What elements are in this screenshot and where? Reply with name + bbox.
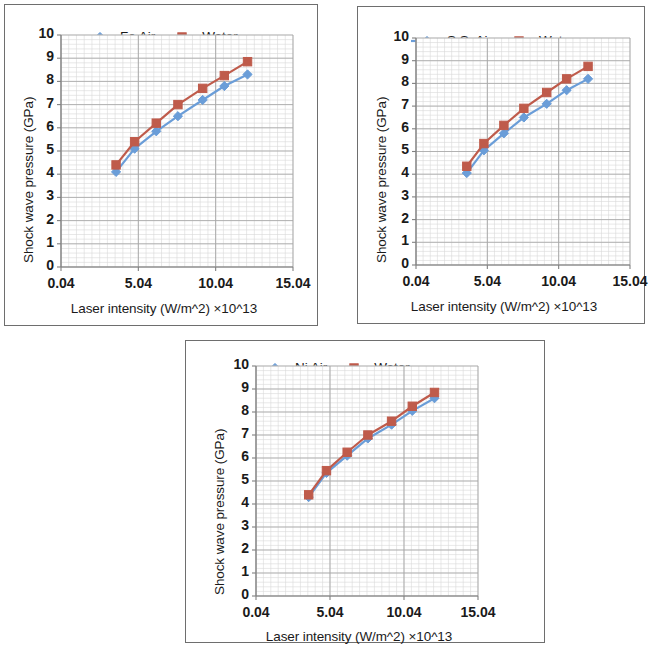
y-axis-tick-label: 1 (241, 563, 249, 579)
y-axis-tick-label: 2 (401, 210, 409, 226)
y-axis-tick-label: 7 (241, 425, 249, 441)
chart-panel-ni: Shock wave pressure (GPa) Ni Air Water L… (185, 340, 545, 643)
data-point-square (243, 57, 251, 65)
y-axis-tick-label: 8 (401, 73, 409, 89)
data-point-square (387, 417, 395, 425)
y-axis-tick-label: 8 (241, 402, 249, 418)
chart-fe: Shock wave pressure (GPa) Fe Air Water L… (5, 5, 317, 325)
y-axis-tick-label: 10 (393, 28, 409, 44)
data-point-square (480, 139, 488, 147)
data-point-square (408, 402, 416, 410)
data-point-square (343, 448, 351, 456)
y-axis-tick-label: 4 (46, 164, 54, 180)
y-axis-tick-label: 3 (241, 517, 249, 533)
y-axis-tick-label: 10 (233, 356, 249, 372)
y-axis-tick-label: 6 (46, 118, 54, 134)
chart-panel-fe: Shock wave pressure (GPa) Fe Air Water L… (4, 4, 318, 326)
chart-panel-ss: Shock wave pressure (GPa) S.S. Air Water… (357, 6, 645, 324)
data-point-square (463, 162, 471, 170)
data-point-square (220, 71, 228, 79)
x-axis-tick-label: 15.04 (595, 273, 653, 289)
x-axis-tick-label: 10.04 (524, 273, 594, 289)
x-axis-tick-label: 10.04 (181, 275, 251, 291)
y-axis-tick-label: 0 (46, 257, 54, 273)
y-axis-tick-label: 4 (241, 494, 249, 510)
x-axis-tick-label: 5.04 (295, 604, 365, 620)
y-axis-tick-label: 0 (241, 586, 249, 602)
chart-ni: Shock wave pressure (GPa) Ni Air Water L… (186, 341, 544, 642)
data-point-square (562, 75, 570, 83)
data-point-square (542, 88, 550, 96)
x-axis-tick-label: 0.04 (381, 273, 451, 289)
data-point-square (304, 491, 312, 499)
x-axis-tick-label: 15.04 (258, 275, 328, 291)
data-point-square (198, 84, 206, 92)
x-axis-tick-label: 0.04 (26, 275, 96, 291)
y-axis-tick-label: 5 (241, 471, 249, 487)
chart-ss: Shock wave pressure (GPa) S.S. Air Water… (358, 7, 644, 323)
y-axis-tick-label: 5 (46, 141, 54, 157)
y-axis-tick-label: 4 (401, 164, 409, 180)
y-axis-tick-label: 9 (46, 48, 54, 64)
y-axis-tick-label: 3 (401, 187, 409, 203)
y-axis-tick-label: 8 (46, 71, 54, 87)
x-axis-tick-label: 15.04 (443, 604, 513, 620)
y-axis-tick-label: 2 (46, 211, 54, 227)
data-point-square (152, 119, 160, 127)
x-axis-tick-label: 5.04 (452, 273, 522, 289)
y-axis-tick-label: 2 (241, 540, 249, 556)
data-point-square (130, 138, 138, 146)
y-axis-tick-label: 0 (401, 255, 409, 271)
x-axis-tick-label: 10.04 (369, 604, 439, 620)
y-axis-tick-label: 7 (401, 96, 409, 112)
y-axis-tick-label: 3 (46, 187, 54, 203)
y-axis-tick-label: 5 (401, 141, 409, 157)
y-axis-tick-label: 1 (401, 232, 409, 248)
data-point-square (584, 62, 592, 70)
data-point-square (520, 104, 528, 112)
plot-area (186, 341, 544, 642)
data-point-square (500, 121, 508, 129)
x-axis-tick-label: 0.04 (221, 604, 291, 620)
y-axis-tick-label: 6 (241, 448, 249, 464)
data-point-square (322, 466, 330, 474)
x-axis-tick-label: 5.04 (103, 275, 173, 291)
y-axis-tick-label: 10 (38, 25, 54, 41)
y-axis-tick-label: 1 (46, 234, 54, 250)
data-point-square (174, 100, 182, 108)
data-point-square (430, 388, 438, 396)
y-axis-tick-label: 6 (401, 119, 409, 135)
y-axis-tick-label: 9 (401, 51, 409, 67)
data-point-square (364, 431, 372, 439)
y-axis-tick-label: 9 (241, 379, 249, 395)
data-point-square (112, 161, 120, 169)
y-axis-tick-label: 7 (46, 95, 54, 111)
